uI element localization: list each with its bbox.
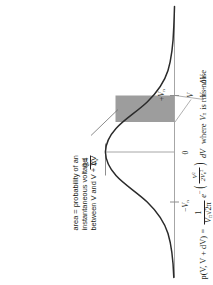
area-annotation-line-1: area = probability of an: [71, 155, 80, 230]
peak-value-label: 0.4 Vn: [81, 147, 100, 177]
peak-value-denominator-v: V: [90, 161, 99, 166]
axis-label-minus-vn: −Vn: [181, 200, 182, 212]
axis-label-plus-vn-text: +V: [157, 91, 166, 101]
figure-page: p(V, V + dV) = 1 Vn√2π e − ( V2 2Vn2 ) d…: [69, 0, 182, 285]
leader-line-v: [175, 99, 182, 122]
gaussian-chart-svg: [69, 0, 182, 285]
axis-label-zero: 0: [181, 150, 182, 154]
gaussian-curve: [105, 6, 174, 277]
axis-label-minus-vn-text: −V: [181, 202, 182, 212]
peak-value-denominator-sub: n: [95, 158, 100, 161]
axis-label-plus-vn-sub: n: [161, 89, 166, 92]
gaussian-chart: [69, 0, 182, 285]
peak-value-denominator: Vn: [91, 147, 100, 177]
axis-label-plus-vn: +Vn: [157, 89, 166, 101]
